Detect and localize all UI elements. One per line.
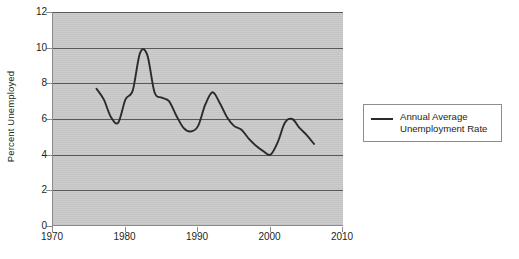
y-tick-label-8: 8 [11, 78, 47, 88]
series-layer [53, 12, 343, 226]
y-tick-label-10: 10 [11, 43, 47, 53]
legend-label: Annual Average Unemployment Rate [400, 111, 487, 136]
x-tick-label-1980: 1980 [102, 231, 148, 242]
y-tick-label-12: 12 [11, 7, 47, 17]
plot-area [52, 12, 343, 226]
y-tick-label-0: 0 [11, 221, 47, 231]
y-tick-label-6: 6 [11, 114, 47, 124]
legend-line-swatch [371, 118, 393, 120]
y-tick-label-4: 4 [11, 150, 47, 160]
unemployment-line-chart: Percent Unemployed 024681012 19701980199… [0, 0, 519, 259]
x-tick-label-1970: 1970 [29, 231, 75, 242]
x-tick-label-2010: 2010 [319, 231, 365, 242]
legend: Annual Average Unemployment Rate [363, 104, 502, 142]
x-tick-label-2000: 2000 [247, 231, 293, 242]
series-line-annual-average-unemployment-rate [97, 49, 315, 155]
x-tick-label-1990: 1990 [174, 231, 220, 242]
y-tick-label-2: 2 [11, 185, 47, 195]
